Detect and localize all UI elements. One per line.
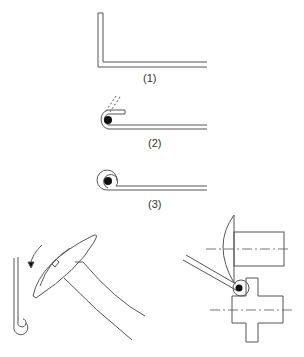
step-3-label: (3) bbox=[148, 198, 161, 210]
wire-core-icon bbox=[104, 116, 112, 124]
roller-illustration bbox=[183, 215, 292, 342]
step-1-label: (1) bbox=[143, 72, 156, 84]
step-3-rolled bbox=[97, 170, 207, 190]
wire-core-icon bbox=[236, 285, 243, 292]
hammer-illustration bbox=[14, 235, 145, 340]
step-1-l-flange bbox=[98, 13, 207, 67]
diagram-canvas: (1) (2) (3) bbox=[0, 0, 304, 357]
step-2-hook bbox=[101, 96, 207, 129]
wire-core-icon bbox=[104, 177, 112, 185]
step-2-label: (2) bbox=[148, 137, 161, 149]
diagram-svg bbox=[0, 0, 304, 357]
